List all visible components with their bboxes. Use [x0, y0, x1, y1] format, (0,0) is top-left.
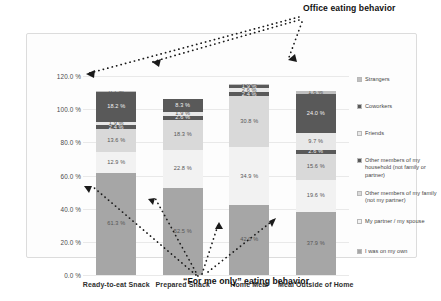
bar-segment[interactable]: 22.8 % [163, 150, 203, 188]
y-axis-tick-label: 100.0 % [57, 106, 81, 113]
y-axis-tick-label: 120.0 % [57, 73, 81, 80]
bar-segment-value-label: 34.9 % [240, 174, 258, 180]
stacked-bar[interactable]: 37.9 %19.6 %15.6 %2.6 %9.7 %24.0 %1.6 % [296, 91, 336, 275]
bar-segment[interactable]: 24.0 % [296, 94, 336, 134]
bar-segment[interactable]: 61.3 % [96, 173, 136, 275]
stacked-bar[interactable]: 61.3 %12.9 %13.6 %2.4 %1.9 %18.2 %0.7 % [96, 91, 136, 275]
plot-area: 61.3 %12.9 %13.6 %2.4 %1.9 %18.2 %0.7 %5… [83, 76, 349, 275]
legend-item-label: Friends [365, 130, 384, 137]
bar-segment-value-label: 2.6 % [308, 150, 323, 154]
chart-plot-frame: 0.0 %20.0 %40.0 %60.0 %80.0 %100.0 %120.… [26, 33, 417, 258]
legend-item[interactable]: Coworkers [357, 103, 392, 110]
bar-segment-value-label: 1.6 % [308, 91, 323, 94]
bar-segment[interactable]: 30.8 % [229, 96, 269, 147]
bar-segment[interactable]: 8.3 % [163, 99, 203, 113]
stacked-bar[interactable]: 42.0 %34.9 %30.8 %2.4 %2.6 %1.9 %0.6 % [229, 84, 269, 275]
legend-item[interactable]: Other members of my household (not famil… [357, 157, 441, 179]
bar-segment-value-label: 1.9 % [242, 85, 257, 88]
bar-segment-value-label: 2.4 % [109, 125, 124, 129]
bar-segment-value-label: 22.8 % [174, 166, 192, 172]
bar-segment[interactable]: 2.4 % [96, 125, 136, 129]
bar-segment[interactable]: 18.3 % [163, 120, 203, 150]
bar-segment[interactable]: 1.9 % [96, 122, 136, 125]
bar-segment[interactable]: 1.9 % [163, 112, 203, 115]
bar-segment-value-label: 8.3 % [175, 103, 190, 109]
bar-segment-value-label: 0.7 % [109, 91, 124, 92]
bar-segment-value-label: 24.0 % [307, 111, 325, 117]
bar-segment[interactable]: 15.6 % [296, 154, 336, 180]
bar-segment-value-label: 42.0 % [240, 237, 258, 243]
bar-segment[interactable]: 18.2 % [96, 92, 136, 122]
legend-item-label: Coworkers [365, 103, 392, 110]
stacked-bar[interactable]: 52.5 %22.8 %18.3 %2.6 %1.9 %8.3 %0.0 % [163, 99, 203, 275]
legend-swatch-icon [357, 249, 362, 254]
bar-segment[interactable]: 12.9 % [96, 152, 136, 173]
bar-segment-value-label: 9.7 % [308, 139, 323, 145]
bar-segment-value-label: 2.4 % [242, 92, 257, 96]
legend-swatch-icon [357, 219, 362, 224]
legend-swatch-icon [357, 191, 362, 196]
bar-segment[interactable]: 0.6 % [229, 84, 269, 85]
bar-segment[interactable]: 42.0 % [229, 205, 269, 275]
annotation-office-eating-behavior: Office eating behavior [303, 3, 423, 14]
bar-segment[interactable]: 2.6 % [163, 116, 203, 120]
bar-segment[interactable]: 2.6 % [296, 150, 336, 154]
bar-segment-value-label: 2.6 % [242, 88, 257, 92]
bar-segment-value-label: 13.6 % [107, 138, 125, 144]
bar-segment-value-label: 30.8 % [240, 119, 258, 125]
bar-segment-value-label: 2.6 % [175, 116, 190, 120]
y-axis-tick-label: 20.0 % [61, 238, 82, 245]
legend-item[interactable]: Friends [357, 130, 384, 137]
bar-segment[interactable]: 2.6 % [229, 88, 269, 92]
bar-segment[interactable]: 2.4 % [229, 92, 269, 96]
bar-segment-value-label: 0.6 % [242, 84, 257, 85]
bar-segment[interactable]: 37.9 % [296, 212, 336, 275]
bar-segment[interactable]: 1.9 % [229, 85, 269, 88]
bar-segment-value-label: 18.2 % [107, 104, 125, 110]
legend-item-label: Other members of my family (not my partn… [365, 190, 441, 205]
y-axis-tick-labels: 0.0 %20.0 %40.0 %60.0 %80.0 %100.0 %120.… [35, 76, 81, 275]
bar-segment[interactable]: 1.6 % [296, 91, 336, 94]
legend-swatch-icon [357, 158, 362, 163]
y-axis-tick-label: 60.0 % [61, 172, 82, 179]
legend-swatch-icon [357, 77, 362, 82]
legend-swatch-icon [357, 131, 362, 136]
bar-segment-value-label: 1.9 % [175, 112, 190, 115]
bar-segment-value-label: 61.3 % [107, 221, 125, 227]
legend-item[interactable]: Other members of my family (not my partn… [357, 190, 441, 205]
gridline [83, 76, 349, 77]
bar-segment[interactable]: 0.7 % [96, 91, 136, 92]
bar-segment-value-label: 18.3 % [174, 132, 192, 138]
bar-segment[interactable]: 13.6 % [96, 129, 136, 152]
bar-segment-value-label: 15.6 % [307, 164, 325, 170]
bar-segment[interactable]: 9.7 % [296, 133, 336, 149]
bar-segment[interactable]: 34.9 % [229, 147, 269, 205]
legend-swatch-icon [357, 104, 362, 109]
y-axis-tick-label: 80.0 % [61, 139, 82, 146]
bar-segment-value-label: 1.9 % [109, 122, 124, 125]
bar-segment-value-label: 19.6 % [307, 193, 325, 199]
legend-item-label: My partner / my spouse [365, 218, 425, 225]
bar-segment[interactable]: 19.6 % [296, 180, 336, 213]
legend-item[interactable]: I was on my own [357, 248, 407, 255]
y-axis-tick-label: 40.0 % [61, 205, 82, 212]
bar-segment-value-label: 52.5 % [174, 229, 192, 235]
bar-segment-value-label: 12.9 % [107, 160, 125, 166]
legend-item-label: I was on my own [365, 248, 407, 255]
bar-segment[interactable]: 52.5 % [163, 188, 203, 275]
annotation-for-me-only-eating-behavior: “For me only” eating behavior [183, 276, 423, 287]
legend-item[interactable]: My partner / my spouse [357, 218, 425, 225]
y-axis-tick-label: 0.0 % [64, 272, 81, 279]
legend-item-label: Other members of my household (not famil… [365, 157, 441, 179]
legend-item[interactable]: Strangers [357, 76, 390, 83]
bar-segment-value-label: 37.9 % [307, 241, 325, 247]
legend-item-label: Strangers [365, 76, 390, 83]
